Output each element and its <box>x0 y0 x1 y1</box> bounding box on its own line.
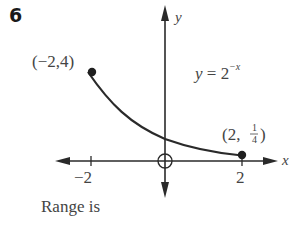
y-axis-down-arrow-icon <box>161 182 169 198</box>
svg-text:): ) <box>260 125 266 144</box>
x-axis: −2 2 x <box>55 152 289 187</box>
equation-label: y = 2 −x <box>193 61 241 83</box>
x-axis-left-arrow-icon <box>55 157 70 165</box>
x-axis-label: x <box>281 152 289 168</box>
svg-text:y = 2: y = 2 <box>193 64 229 83</box>
y-axis-label: y <box>173 9 182 25</box>
endpoint-label-neg2-4: (−2,4) <box>32 52 74 71</box>
x-axis-right-arrow-icon <box>263 157 278 165</box>
svg-text:(2,: (2, <box>222 125 240 144</box>
svg-text:−x: −x <box>229 61 241 72</box>
endpoint-2-quarter <box>238 151 246 159</box>
x-tick-label-neg2: −2 <box>74 168 92 187</box>
endpoint-label-2-quarter: (2, 1 4 ) <box>222 122 266 145</box>
range-text: Range is <box>41 197 100 217</box>
endpoint-neg2-4 <box>88 68 96 76</box>
y-axis-up-arrow-icon <box>161 5 169 21</box>
svg-text:1: 1 <box>252 122 257 133</box>
y-axis: y <box>161 5 182 198</box>
svg-text:4: 4 <box>252 134 257 145</box>
graph: −2 2 x y (−2,4) (2, 1 4 ) y = 2 −x <box>0 0 304 225</box>
x-tick-label-2: 2 <box>236 168 245 187</box>
